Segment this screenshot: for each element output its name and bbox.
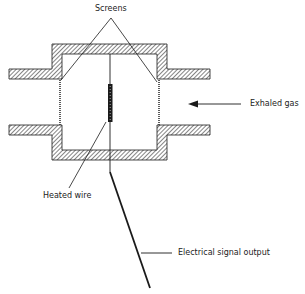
electrical-signal-output-label: Electrical signal output: [178, 248, 270, 258]
flow-arrow: [188, 101, 241, 108]
housing-upper-wall: [9, 44, 210, 79]
screens-label: Screens: [95, 4, 127, 14]
arrow-head-icon: [188, 101, 198, 108]
housing-lower-wall: [9, 125, 210, 160]
signal-lead: [110, 172, 150, 288]
heated-wire-label: Heated wire: [43, 191, 91, 201]
exhaled-gas-label: Exhaled gas: [250, 99, 299, 109]
